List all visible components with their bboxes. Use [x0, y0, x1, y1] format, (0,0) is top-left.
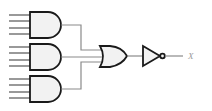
and-gate-1-inputs: [9, 15, 30, 34]
and-gate-2-inputs: [9, 47, 30, 66]
not-gate: [143, 46, 160, 66]
or-gate: [100, 46, 127, 67]
and-gate-2: [30, 44, 61, 70]
and-gate-1: [30, 12, 61, 38]
and-gate-3-inputs: [9, 79, 30, 98]
output-label: X: [187, 51, 194, 61]
not-bubble: [160, 54, 165, 59]
wire-and1-or: [61, 25, 103, 50]
logic-circuit: X: [0, 0, 212, 111]
wire-and3-or: [61, 62, 103, 89]
and-gate-3: [30, 76, 61, 102]
